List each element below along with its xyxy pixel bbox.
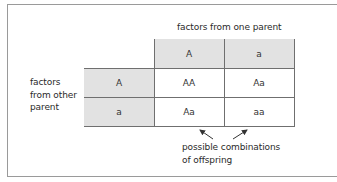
caption-line-2: of offspring — [182, 154, 280, 167]
arrow-right-icon — [233, 130, 247, 139]
caption-line-1: possible combinations — [182, 141, 280, 154]
caption: possible combinations of offspring — [182, 141, 280, 167]
arrow-left-icon — [200, 130, 213, 139]
